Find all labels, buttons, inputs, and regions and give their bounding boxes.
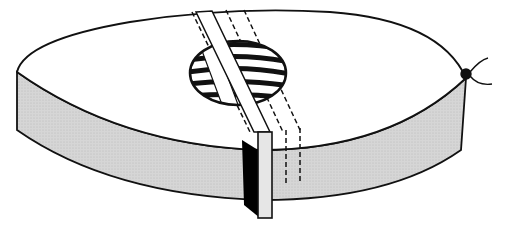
disk-diagram — [0, 0, 506, 225]
diagram-figure — [0, 0, 506, 225]
strip-end-front — [258, 132, 272, 218]
